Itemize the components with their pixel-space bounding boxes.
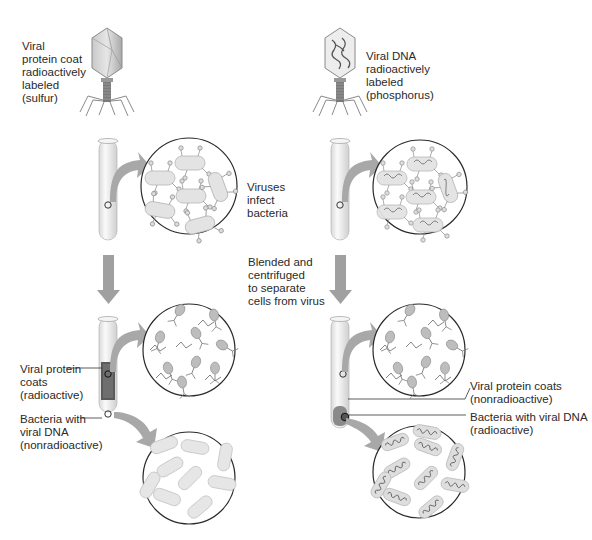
right-viral-coats-magnified (373, 302, 468, 398)
right-infection-magnified (373, 140, 471, 242)
left-bacteria-magnified (138, 432, 237, 524)
left-phage-icon (80, 28, 134, 116)
right-phage-icon (313, 28, 367, 116)
right-down-arrow (329, 255, 352, 304)
right-zoom-arrow-3 (346, 418, 385, 452)
left-down-arrow (97, 255, 120, 304)
left-viral-coats-magnified (143, 302, 238, 398)
left-zoom-arrow-3 (114, 412, 157, 448)
left-infection-magnified (141, 138, 241, 245)
